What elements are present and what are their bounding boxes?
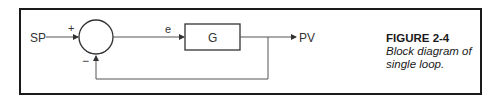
- input-label: SP: [30, 32, 46, 44]
- caption-title: FIGURE 2-4: [386, 32, 486, 45]
- output-label: PV: [299, 32, 315, 44]
- summing-junction: [79, 20, 113, 54]
- error-label: e: [165, 24, 171, 35]
- figure-caption: FIGURE 2-4 Block diagram of single loop.: [386, 32, 486, 71]
- feedback-path: [96, 37, 268, 79]
- plus-sign: +: [68, 23, 74, 34]
- minus-sign: −: [82, 55, 89, 67]
- caption-text: Block diagram of single loop.: [386, 45, 486, 71]
- block-label: G: [208, 32, 217, 44]
